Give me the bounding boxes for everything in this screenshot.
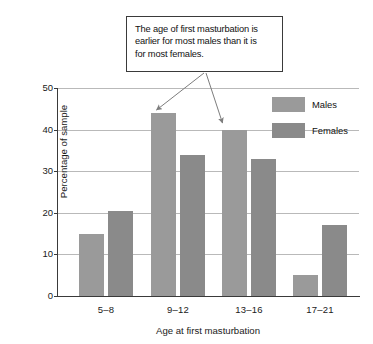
legend-swatch-females [272,123,305,138]
xtick-label-5-8: 5–8 [76,304,136,315]
gridline-30 [57,171,359,172]
bar-females-9-12[interactable] [180,155,205,296]
ytick-mark-20 [54,213,57,214]
bar-males-17-21[interactable] [293,275,318,296]
ytick-label-40: 40 [31,124,53,135]
gridline-20 [57,213,359,214]
bar-males-13-16[interactable] [222,130,247,296]
annotation-line-1: The age of first masturbation is [135,23,275,35]
annotation-line-3: for most females. [135,48,275,60]
ytick-label-50: 50 [31,82,53,93]
bar-males-9-12[interactable] [151,113,176,296]
ytick-label-20: 20 [31,207,53,218]
chart-legend: Males Females [272,97,348,149]
xtick-label-13-16: 13–16 [219,304,279,315]
bar-males-5-8[interactable] [79,234,104,296]
legend-label-males: Males [312,99,337,110]
ytick-label-0: 0 [31,290,53,301]
ytick-label-10: 10 [31,248,53,259]
ytick-mark-10 [54,254,57,255]
ytick-mark-0 [54,296,57,297]
legend-item-females[interactable]: Females [272,123,348,138]
xtick-label-17-21: 17–21 [290,304,350,315]
annotation-callout-box: The age of first masturbation is earlier… [126,16,283,72]
xtick-label-9-12: 9–12 [148,304,208,315]
y-axis-title: Percentage of sample [58,92,69,212]
bar-females-13-16[interactable] [251,159,276,296]
bar-females-17-21[interactable] [322,225,347,296]
bar-females-5-8[interactable] [108,211,133,296]
gridline-50 [57,88,359,89]
x-axis-title: Age at first masturbation [57,325,359,336]
bar-chart-figure: The age of first masturbation is earlier… [0,0,373,344]
legend-swatch-males [272,97,305,112]
legend-item-males[interactable]: Males [272,97,348,112]
ytick-label-30: 30 [31,165,53,176]
legend-label-females: Females [312,125,348,136]
annotation-line-2: earlier for most males than it is [135,35,275,47]
x-axis-line [54,296,360,297]
ytick-mark-50 [54,88,57,89]
